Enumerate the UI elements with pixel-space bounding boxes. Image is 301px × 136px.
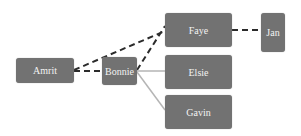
node-label: Gavin — [186, 107, 210, 118]
node-jan[interactable]: Jan — [261, 13, 285, 52]
node-label: Jan — [266, 27, 279, 38]
node-label: Amrit — [33, 65, 57, 76]
node-gavin[interactable]: Gavin — [165, 95, 232, 129]
node-bonnie[interactable]: Bonnie — [102, 57, 137, 85]
edge-bonnie-faye — [137, 26, 165, 70]
node-faye[interactable]: Faye — [165, 13, 232, 47]
node-label: Elsie — [189, 67, 209, 78]
node-label: Bonnie — [105, 66, 134, 77]
node-label: Faye — [189, 25, 208, 36]
node-amrit[interactable]: Amrit — [16, 58, 74, 83]
edge-bonnie-gavin — [137, 72, 165, 110]
node-elsie[interactable]: Elsie — [165, 55, 232, 89]
